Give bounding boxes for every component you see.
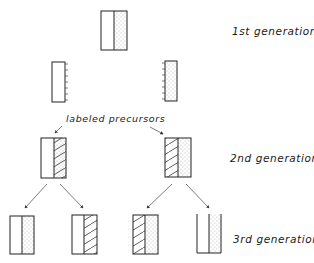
precursor-arrow-left <box>55 126 62 133</box>
arrow-gen3-1 <box>25 184 47 208</box>
gen1-molecule <box>101 11 127 50</box>
gen3-label: 3rd generation <box>233 233 314 245</box>
gen2-label: 2nd generation <box>230 152 314 164</box>
gen3-molecule-3 <box>133 215 158 254</box>
precursors-label: labeled precursors <box>66 113 165 124</box>
gen3-molecule-1 <box>10 216 34 254</box>
parent-strand-right <box>162 61 177 101</box>
gen3-molecule-2 <box>72 215 97 254</box>
replication-diagram: 1st generation labeled precursors <box>0 0 314 263</box>
gen3-molecule-4 <box>197 214 221 253</box>
gen2-molecule-left <box>41 138 66 178</box>
arrow-gen3-3 <box>147 184 172 208</box>
gen2-molecule-right <box>165 138 191 177</box>
gen1-label: 1st generation <box>232 25 314 37</box>
arrow-gen3-4 <box>186 184 209 208</box>
parent-strand-left <box>52 62 68 102</box>
precursor-arrow-right <box>150 127 163 134</box>
arrow-gen3-2 <box>60 184 83 208</box>
